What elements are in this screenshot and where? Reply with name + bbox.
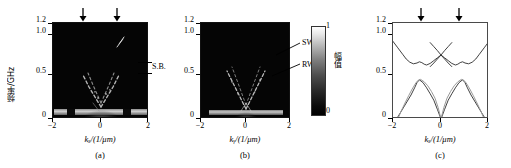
panel-a-ytick-0-5: 0.5 — [24, 66, 46, 75]
panel-b-xlabel: kᵧ/(1/μm) — [200, 134, 290, 144]
colorbar-tick-top: 1 — [326, 21, 330, 30]
colorbar-tick-bottom: 0 — [326, 106, 330, 115]
panel-c-curves — [393, 23, 488, 118]
panel-a-xlabel: kₓ/(1/μm) — [55, 134, 145, 144]
panel-b-ytick-0: 0 — [172, 110, 194, 119]
panel-c-caption: (c) — [395, 150, 485, 160]
panel-c-arrow-right — [450, 8, 468, 22]
panel-c-ytick-0: 0 — [364, 110, 386, 119]
panel-c-xtick-neg2: −2 — [382, 121, 402, 130]
panel-a-ytick-0: 0 — [24, 110, 46, 119]
panel-a-sb-mark-lower — [138, 73, 152, 74]
panel-c-xlabel: kₓ/(1/μm) — [395, 134, 485, 144]
colorbar — [311, 26, 326, 116]
panel-a-ylabel: 频率/GHz — [6, 30, 17, 102]
panel-a-annotation-sb: S.B. — [152, 62, 166, 71]
panel-c-ytick-1-0: 1.0 — [364, 26, 386, 35]
panel-a-xtick-0: 0 — [90, 121, 110, 130]
panel-c-ytick-0-5: 0.5 — [364, 66, 386, 75]
panel-c-lineplot — [392, 22, 488, 118]
figure-root: 频率/GHz 1.2 1.0 0.5 0 — [0, 0, 511, 168]
panel-b-xtick-0: 0 — [235, 121, 255, 130]
panel-a-sb-mark-upper — [138, 62, 152, 63]
colorbar-label: 幅值 — [331, 52, 342, 88]
curve-3 — [397, 80, 486, 118]
panel-c-xtick-0: 0 — [430, 121, 450, 130]
panel-a-arrow-right — [108, 8, 126, 22]
panel-b-leader-rw — [272, 63, 302, 77]
panel-b-ytick-1-0: 1.0 — [172, 26, 194, 35]
panel-c-ytick-1-2: 1.2 — [364, 15, 386, 24]
panel-b-xtick-neg2: −2 — [190, 121, 210, 130]
panel-a-ytick-1-0: 1.0 — [24, 26, 46, 35]
panel-a-ytick-1-2: 1.2 — [24, 15, 46, 24]
curve-0 — [393, 41, 488, 65]
panel-a-caption: (a) — [55, 150, 145, 160]
panel-a-xtick-neg2: −2 — [42, 121, 62, 130]
panel-b-leader-sw — [276, 42, 302, 56]
panel-c-xtick-2: 2 — [477, 121, 497, 130]
panel-b-xtick-2: 2 — [279, 121, 299, 130]
panel-b-ytick-0-5: 0.5 — [172, 66, 194, 75]
curve-4 — [398, 79, 484, 118]
panel-a-heatmap — [52, 22, 148, 118]
panel-a-heatmap-canvas — [53, 23, 148, 118]
panel-b-ytick-1-2: 1.2 — [172, 15, 194, 24]
panel-c-arrow-left — [412, 8, 430, 22]
panel-b-caption: (b) — [200, 150, 290, 160]
panel-a-xtick-2: 2 — [138, 121, 158, 130]
panel-a-arrow-left — [74, 8, 92, 22]
